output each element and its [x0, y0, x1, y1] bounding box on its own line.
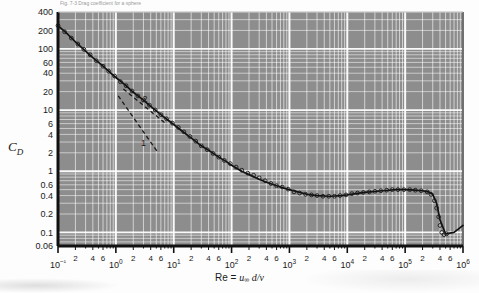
x-tick-label-minor: 4: [438, 254, 443, 263]
x-tick-label-minor: 6: [332, 254, 337, 263]
x-tick-label-minor: 4: [264, 254, 269, 263]
x-tick-label-decade: 101: [167, 258, 181, 271]
x-tick-label-minor: 4: [206, 254, 211, 263]
y-tick-label: 4: [48, 130, 53, 140]
plot-canvas: 4002001006040201064210.60.40.20.10.06 10…: [0, 0, 479, 293]
y-tick-label: 200: [38, 26, 53, 36]
x-tick-label-minor: 2: [305, 254, 310, 263]
x-tick-label-decade: 100: [109, 258, 123, 271]
x-tick-label-decade: 106: [456, 258, 470, 271]
x-tick-label-decade: 103: [283, 258, 297, 271]
y-tick-label: 0.6: [40, 180, 53, 190]
y-tick-label: 100: [38, 44, 53, 54]
x-tick-label-minor: 2: [247, 254, 252, 263]
x-tick-label-minor: 6: [448, 254, 453, 263]
y-tick-label: 0.2: [40, 209, 53, 219]
x-tick-label-minor: 4: [322, 254, 327, 263]
x-tick-label-minor: 6: [159, 254, 164, 263]
figure-sphere-drag-coefficient: Fig. 7-3 Drag coefficient for a sphere C…: [0, 0, 479, 293]
y-tick-label: 0.1: [40, 228, 53, 238]
x-tick-label-decade: 10−¹: [50, 258, 67, 271]
y-tick-label: 0.4: [40, 191, 53, 201]
y-tick-label: 6: [48, 119, 53, 129]
x-tick-label-decade: 105: [398, 258, 412, 271]
x-tick-label-minor: 2: [189, 254, 194, 263]
y-tick-label: 20: [43, 87, 53, 97]
slope-annotation-2: 2: [143, 94, 148, 104]
x-tick-label-minor: 2: [420, 254, 425, 263]
y-tick-label: 60: [43, 58, 53, 68]
x-tick-label-minor: 2: [73, 254, 78, 263]
x-tick-label-minor: 6: [101, 254, 106, 263]
slope-annotation-1: 1: [141, 138, 146, 148]
x-tick-label-minor: 4: [148, 254, 153, 263]
y-tick-label: 40: [43, 68, 53, 78]
y-axis-tick-labels: 4002001006040201064210.60.40.20.10.06: [35, 7, 53, 251]
x-tick-label-decade: 102: [225, 258, 239, 271]
x-tick-label-minor: 4: [91, 254, 96, 263]
y-tick-label: 1: [48, 166, 53, 176]
x-tick-label-minor: 2: [131, 254, 136, 263]
x-tick-label-minor: 2: [362, 254, 367, 263]
y-tick-label: 10: [43, 105, 53, 115]
y-tick-label: 400: [38, 7, 53, 17]
y-tick-label: 0.06: [35, 241, 53, 251]
x-tick-label-minor: 4: [380, 254, 385, 263]
x-tick-label-decade: 104: [340, 258, 354, 271]
x-tick-label-minor: 6: [274, 254, 279, 263]
x-axis-tick-labels: 10−¹246100246101246102246103246104246105…: [50, 254, 470, 270]
x-tick-label-minor: 6: [217, 254, 222, 263]
x-tick-label-minor: 6: [390, 254, 395, 263]
y-tick-label: 2: [48, 148, 53, 158]
